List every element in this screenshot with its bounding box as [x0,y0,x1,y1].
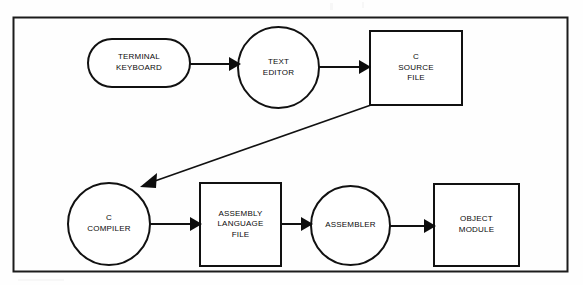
node-terminal-keyboard[interactable] [88,39,190,87]
edge-editor-to-source [319,60,371,74]
node-text-editor[interactable] [238,27,319,108]
edge-source-to-compiler [140,105,371,188]
edge-assembler-to-object [390,219,436,233]
node-object-module[interactable] [434,184,519,266]
node-c-source-file[interactable] [370,31,462,105]
edge-asm-to-assembler [281,217,313,231]
diagram-canvas: TERMINAL KEYBOARD TEXT EDITOR C SOURCE F… [0,0,583,285]
edge-compiler-to-asm [150,217,202,231]
node-assembly-language-file[interactable] [200,183,281,266]
edge-keyboard-to-editor [190,57,241,71]
flowchart-graphic [0,0,583,285]
node-assembler[interactable] [311,186,390,265]
node-c-compiler[interactable] [68,183,150,265]
